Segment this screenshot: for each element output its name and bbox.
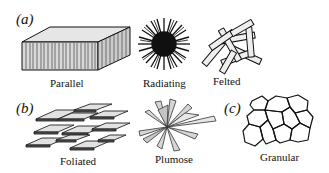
caption-felted: Felted — [213, 75, 241, 87]
caption-radiating: Radiating — [143, 77, 186, 89]
parallel-block-icon — [22, 27, 130, 70]
felted-rods-icon — [202, 19, 262, 73]
crystal-habit-diagram: (a) (b) (c) Parallel Radiating Felted Fo… — [0, 0, 329, 173]
panel-label-b: (b) — [16, 101, 34, 116]
plumose-blades-icon — [139, 99, 216, 151]
foliated-plates-icon — [26, 104, 130, 150]
caption-foliated: Foliated — [60, 155, 96, 167]
granular-polygons-icon — [243, 95, 313, 146]
panel-label-c: (c) — [224, 101, 241, 116]
caption-parallel: Parallel — [50, 77, 84, 89]
caption-granular: Granular — [260, 151, 299, 163]
radiating-sphere-icon — [138, 18, 190, 70]
panel-label-a: (a) — [16, 12, 34, 27]
caption-plumose: Plumose — [155, 153, 193, 165]
